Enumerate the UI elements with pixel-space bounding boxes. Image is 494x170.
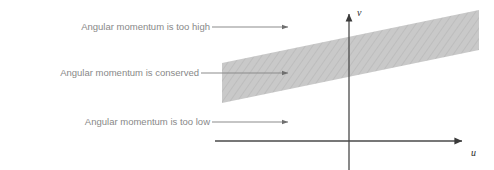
annotation-label-conserved: Angular momentum is conserved	[60, 67, 199, 78]
u-axis-label: u	[471, 147, 476, 158]
v-axis-label: v	[357, 7, 362, 18]
annotation-label-too-high: Angular momentum is too high	[81, 21, 210, 32]
conserved-band-region	[222, 10, 479, 103]
annotation-label-too-low: Angular momentum is too low	[85, 116, 210, 127]
angular-momentum-figure: Angular momentum is too high Angular mom…	[0, 0, 494, 170]
